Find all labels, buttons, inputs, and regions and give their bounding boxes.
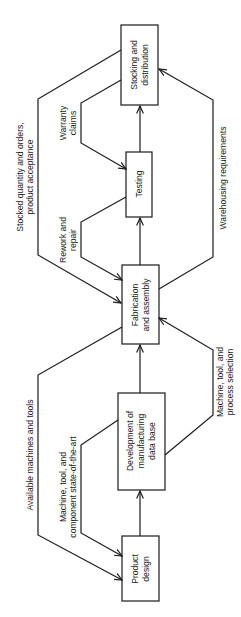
node-label-line: distribution bbox=[140, 44, 150, 86]
edge-label-line: process selection bbox=[225, 349, 235, 416]
node-product-design: Product design bbox=[122, 536, 159, 601]
node-testing: Testing bbox=[126, 152, 152, 217]
node-fabrication-and-assembly: Fabrication and assembly bbox=[122, 265, 159, 344]
node-label-line: Fabrication bbox=[130, 284, 140, 327]
node-label-line: Stocking and bbox=[129, 40, 139, 90]
edge-label-line: Available machines and tools bbox=[25, 399, 35, 510]
edge-label-line: product acceptance bbox=[25, 139, 35, 214]
edge-label-line: component state-of-the-art bbox=[68, 436, 78, 538]
manufacturing-flow-diagram: Stocking and distribution Testing Fabric… bbox=[0, 0, 241, 617]
arrow-fabrication-to-stocking bbox=[159, 69, 213, 289]
arrow-development-to-fabrication-selection bbox=[159, 318, 213, 455]
node-label-line: Testing bbox=[134, 170, 144, 197]
edge-label-line: Machine, tool, and bbox=[215, 347, 225, 417]
node-development-of-manufacturing-data-base: Development of manufacturing data base bbox=[118, 393, 165, 490]
edge-label-line: claims bbox=[68, 111, 78, 135]
node-label-line: Product bbox=[130, 554, 140, 584]
edge-label-line: Warehousing requirements bbox=[218, 127, 228, 230]
node-label-line: and assembly bbox=[141, 278, 151, 332]
node-stocking-and-distribution: Stocking and distribution bbox=[121, 25, 158, 105]
edge-label-line: repair bbox=[68, 229, 78, 251]
node-label-line: Development of bbox=[125, 410, 135, 471]
arrow-development-to-product-design bbox=[81, 420, 122, 556]
node-label-line: design bbox=[141, 556, 151, 582]
arrow-stocking-to-testing bbox=[81, 80, 126, 169]
edge-label-line: Warranty bbox=[58, 105, 68, 140]
node-label-line: manufacturing bbox=[136, 414, 146, 469]
edge-label-line: Stocked quantity and orders, bbox=[15, 122, 25, 231]
edge-label-line: Rework and bbox=[58, 217, 68, 263]
arrow-testing-to-fabrication bbox=[81, 197, 126, 280]
node-label-line: data base bbox=[147, 422, 157, 460]
arrow-fabrication-to-product-design bbox=[38, 327, 122, 580]
edge-label-line: Machine, tool, and bbox=[58, 452, 68, 522]
arrow-stocking-to-fabrication bbox=[38, 50, 121, 303]
